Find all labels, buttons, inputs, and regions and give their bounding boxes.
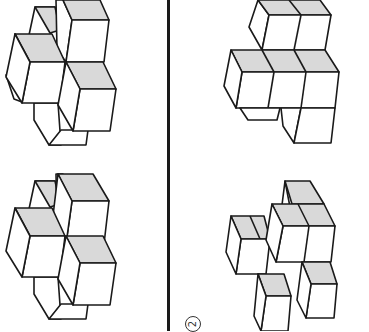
figure-top-left — [6, 0, 116, 145]
figure-bottom-left — [6, 174, 116, 319]
figure-top-right — [224, 0, 339, 143]
figure-bottom-right — [226, 181, 337, 331]
option-number-label: 2 — [185, 316, 201, 332]
